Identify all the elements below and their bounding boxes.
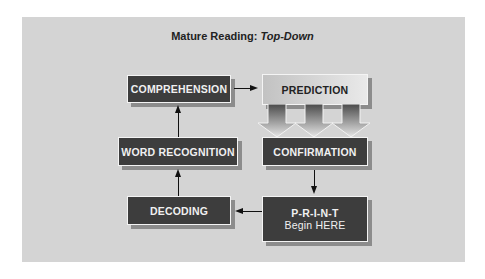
node-label: PREDICTION	[282, 84, 349, 96]
node-decoding: DECODING	[127, 196, 231, 225]
node-confirmation: CONFIRMATION	[262, 137, 368, 166]
arrow-comprehension-prediction	[234, 88, 250, 89]
node-sublabel: Begin HERE	[285, 219, 346, 231]
title-prefix: Mature Reading:	[171, 30, 260, 42]
arrowhead-up-icon	[175, 169, 181, 177]
diagram-panel	[22, 17, 465, 262]
node-label: DECODING	[150, 205, 208, 217]
block-arrows-icon	[258, 104, 374, 138]
node-print: P-R-I-N-TBegin HERE	[262, 196, 368, 242]
node-comprehension: COMPREHENSION	[127, 75, 231, 103]
node-word-recognition: WORD RECOGNITION	[118, 137, 238, 166]
arrow-print-decoding	[242, 211, 262, 212]
arrow-wordrec-comprehension	[178, 112, 179, 137]
node-prediction: PREDICTION	[262, 74, 368, 105]
arrowhead-left-icon	[235, 208, 243, 214]
diagram-title: Mature Reading: Top-Down	[0, 30, 485, 42]
arrowhead-up-icon	[175, 105, 181, 113]
title-emphasis: Top-Down	[260, 30, 313, 42]
node-label: COMPREHENSION	[131, 83, 228, 95]
node-label: WORD RECOGNITION	[121, 146, 234, 158]
arrowhead-right-icon	[250, 85, 258, 91]
node-label: CONFIRMATION	[273, 146, 356, 158]
node-label: P-R-I-N-T	[291, 207, 338, 219]
arrow-decoding-wordrec	[178, 175, 179, 196]
arrowhead-down-icon	[311, 186, 317, 194]
